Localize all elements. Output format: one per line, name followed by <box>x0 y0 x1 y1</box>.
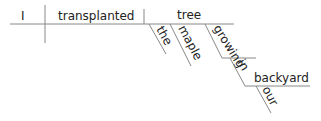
possessive-word-our: our <box>259 84 281 108</box>
object-word: tree <box>177 8 201 22</box>
prep-object-word: backyard <box>254 71 309 85</box>
verb-word: transplanted <box>58 9 134 23</box>
subject-word: I <box>21 9 25 23</box>
sentence-diagram: I transplanted tree the maple growing in… <box>0 0 321 121</box>
